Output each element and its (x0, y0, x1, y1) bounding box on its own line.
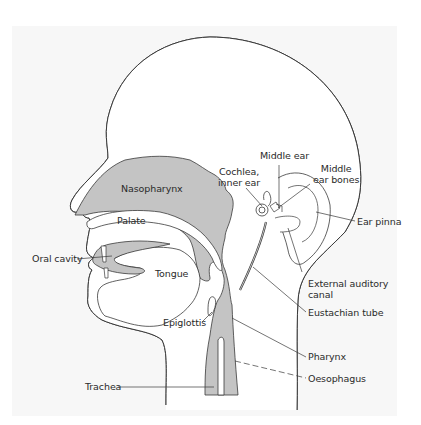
label-trachea: Trachea (85, 381, 121, 392)
label-middle-ear-bones: Middle ear bones (313, 163, 359, 185)
label-pharynx: Pharynx (308, 351, 346, 362)
label-cochlea-inner-ear: Cochlea, inner ear (218, 166, 260, 188)
label-middle-ear: Middle ear (260, 150, 309, 161)
label-tongue: Tongue (155, 268, 188, 279)
head-anatomy-illustration (0, 0, 421, 425)
label-oral-cavity: Oral cavity (32, 253, 82, 264)
label-epiglottis: Epiglottis (163, 317, 206, 328)
label-nasopharynx: Nasopharynx (121, 183, 183, 194)
oesophagus-slit (218, 337, 224, 395)
label-external-auditory-canal: External auditory canal (308, 278, 388, 300)
label-eustachian-tube: Eustachian tube (308, 307, 383, 318)
lower-tooth (104, 268, 108, 278)
label-oesophagus: Oesophagus (308, 373, 366, 384)
label-palate: Palate (117, 215, 146, 226)
label-ear-pinna: Ear pinna (357, 216, 401, 227)
